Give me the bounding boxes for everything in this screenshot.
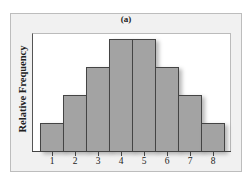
histogram-bar	[132, 39, 156, 152]
histogram-bar	[63, 95, 87, 152]
histogram-bar	[109, 39, 133, 152]
x-tick-label: 8	[205, 156, 221, 166]
histogram-bar	[178, 95, 202, 152]
x-tick-label: 1	[44, 156, 60, 166]
chart-title: (a)	[0, 14, 252, 24]
x-tick-label: 7	[182, 156, 198, 166]
histogram-bar	[40, 123, 64, 152]
x-tick-label: 5	[136, 156, 152, 166]
x-tick-label: 4	[113, 156, 129, 166]
histogram-bar	[86, 67, 110, 152]
histogram-bar	[201, 123, 225, 152]
x-axis-line	[32, 151, 231, 152]
x-tick-label: 6	[159, 156, 175, 166]
y-axis-label: Relative Frequency	[17, 46, 28, 133]
x-tick-label: 2	[67, 156, 83, 166]
histogram-bar	[155, 67, 179, 152]
x-tick-label: 3	[90, 156, 106, 166]
